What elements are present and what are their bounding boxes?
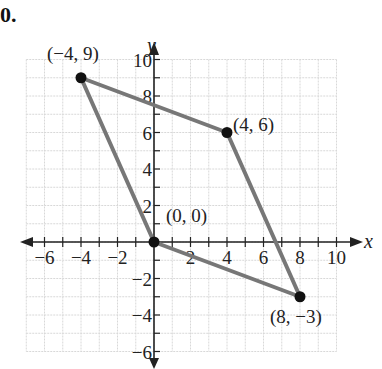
point-label: (4, 6) <box>233 114 274 136</box>
point-label: (−4, 9) <box>47 43 99 65</box>
y-tick-label: −2 <box>132 269 152 290</box>
x-tick-label: −6 <box>34 247 54 268</box>
x-tick-label: 6 <box>259 247 269 268</box>
y-tick-label: −6 <box>132 342 152 363</box>
data-point <box>222 127 233 138</box>
x-tick-label: 10 <box>327 247 346 268</box>
point-label: (8, −3) <box>270 306 322 328</box>
x-tick-label: −4 <box>71 247 92 268</box>
point-label: (0, 0) <box>166 205 207 227</box>
x-axis-arrow-right-icon <box>350 237 363 247</box>
data-point <box>295 291 306 302</box>
x-tick-label: −2 <box>107 247 127 268</box>
x-tick-label: 4 <box>222 247 232 268</box>
y-tick-label: 4 <box>143 159 153 180</box>
x-tick-label: 8 <box>295 247 305 268</box>
coordinate-plane: xy−6−4−2246810−6−4−2246810(−4, 9)(4, 6)(… <box>0 0 382 369</box>
data-point <box>149 237 160 248</box>
y-tick-label: 2 <box>143 196 153 217</box>
x-axis-label: x <box>363 230 373 252</box>
y-tick-label: 6 <box>143 123 153 144</box>
y-tick-label: −4 <box>132 305 153 326</box>
data-point <box>76 72 87 83</box>
y-tick-label: 10 <box>133 50 152 71</box>
